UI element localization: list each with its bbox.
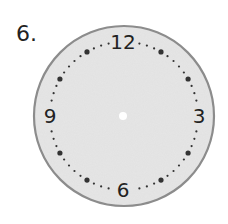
minute-marker-dot	[191, 85, 193, 87]
minute-marker-dot	[93, 183, 95, 185]
minute-marker-dot	[172, 170, 174, 172]
minute-marker-dot	[146, 185, 148, 187]
minute-marker-dot	[53, 92, 55, 94]
hour-marker-dot	[84, 49, 89, 54]
minute-marker-dot	[153, 183, 155, 185]
minute-marker-dot	[195, 130, 197, 132]
minute-marker-dot	[79, 175, 81, 177]
hour-marker-dot	[57, 150, 62, 155]
hour-marker-dot	[57, 76, 62, 81]
minute-marker-dot	[73, 60, 75, 62]
clock-numeral-6: 6	[117, 178, 130, 202]
minute-marker-dot	[68, 164, 70, 166]
minute-marker-dot	[63, 71, 65, 73]
minute-marker-dot	[55, 145, 57, 147]
minute-marker-dot	[73, 170, 75, 172]
minute-marker-dot	[53, 138, 55, 140]
minute-marker-dot	[191, 145, 193, 147]
minute-marker-dot	[93, 47, 95, 49]
hour-marker-dot	[158, 49, 163, 54]
clock-numeral-12: 12	[110, 30, 135, 54]
minute-marker-dot	[51, 130, 53, 132]
minute-marker-dot	[153, 47, 155, 49]
minute-marker-dot	[178, 65, 180, 67]
minute-marker-dot	[55, 85, 57, 87]
minute-marker-dot	[166, 55, 168, 57]
hour-marker-dot	[185, 76, 190, 81]
minute-marker-dot	[178, 164, 180, 166]
clock-center-dot	[119, 112, 127, 120]
minute-marker-dot	[100, 45, 102, 47]
hour-marker-dot	[158, 177, 163, 182]
minute-marker-dot	[100, 185, 102, 187]
minute-marker-dot	[68, 65, 70, 67]
minute-marker-dot	[108, 187, 110, 189]
minute-marker-dot	[146, 45, 148, 47]
hour-marker-dot	[185, 150, 190, 155]
minute-marker-dot	[183, 158, 185, 160]
minute-marker-dot	[63, 158, 65, 160]
clock-face: 12 3 6 9	[0, 0, 228, 224]
minute-marker-dot	[166, 175, 168, 177]
minute-marker-dot	[172, 60, 174, 62]
minute-marker-dot	[195, 100, 197, 102]
minute-marker-dot	[51, 100, 53, 102]
minute-marker-dot	[138, 43, 140, 45]
minute-marker-dot	[193, 138, 195, 140]
minute-marker-dot	[79, 55, 81, 57]
clock-numeral-9: 9	[44, 104, 57, 128]
hour-marker-dot	[84, 177, 89, 182]
minute-marker-dot	[138, 187, 140, 189]
minute-marker-dot	[193, 92, 195, 94]
clock-numeral-3: 3	[193, 104, 206, 128]
minute-marker-dot	[183, 71, 185, 73]
